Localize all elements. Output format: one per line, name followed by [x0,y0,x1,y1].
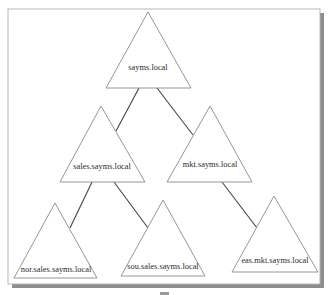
node-label: mkt.sayms.local [183,160,238,169]
domain-tree-diagram: sayms.local sales.sayms.local mkt.sayms.… [0,0,328,295]
node-label: nor.sales.sayms.local [21,265,92,274]
node-label: eas.mkt.sayms.local [241,256,309,265]
node-label: sayms.local [128,63,168,72]
node-label: sou.sales.sayms.local [127,262,199,271]
node-label: sales.sayms.local [73,162,131,171]
